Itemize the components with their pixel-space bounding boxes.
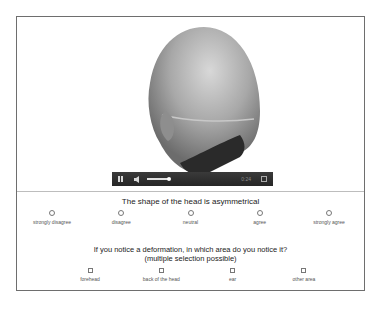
option-other-area[interactable]: other area xyxy=(271,268,337,282)
checkbox[interactable] xyxy=(301,268,306,273)
question-1-title: The shape of the head is asymmetrical xyxy=(17,197,364,206)
progress-slider[interactable] xyxy=(147,178,169,180)
video-controls: 0:24 xyxy=(112,172,273,186)
question-2-title: If you notice a deformation, in which ar… xyxy=(17,245,364,263)
option-ear[interactable]: ear xyxy=(200,268,266,282)
survey-frame: 0:24 The shape of the head is asymmetric… xyxy=(16,16,365,291)
option-back-of-head[interactable]: back of the head xyxy=(128,268,194,282)
time-display: 0:24 xyxy=(241,176,251,182)
video-player[interactable]: 0:24 xyxy=(17,17,364,191)
option-strongly-disagree[interactable]: strongly disagree xyxy=(19,210,85,225)
radio-button[interactable] xyxy=(188,210,194,216)
option-neutral[interactable]: neutral xyxy=(158,210,224,225)
radio-button[interactable] xyxy=(326,210,332,216)
volume-icon[interactable] xyxy=(134,176,142,183)
fullscreen-icon[interactable] xyxy=(261,176,267,182)
checkbox[interactable] xyxy=(159,268,164,273)
head-model-image xyxy=(142,23,266,183)
radio-button[interactable] xyxy=(49,210,55,216)
area-checkboxes: forehead back of the head ear other area xyxy=(57,268,337,282)
checkbox[interactable] xyxy=(88,268,93,273)
likert-scale: strongly disagree disagree neutral agree… xyxy=(17,210,364,225)
checkbox[interactable] xyxy=(230,268,235,273)
option-disagree[interactable]: disagree xyxy=(88,210,154,225)
option-strongly-agree[interactable]: strongly agree xyxy=(296,210,362,225)
radio-button[interactable] xyxy=(257,210,263,216)
option-forehead[interactable]: forehead xyxy=(57,268,123,282)
pause-icon[interactable] xyxy=(118,176,124,182)
divider xyxy=(17,191,364,192)
option-agree[interactable]: agree xyxy=(227,210,293,225)
radio-button[interactable] xyxy=(118,210,124,216)
